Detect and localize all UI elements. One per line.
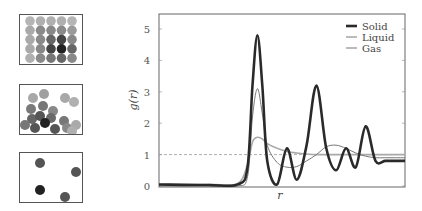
svg-text:1: 1 (144, 150, 150, 161)
svg-text:4: 4 (144, 55, 150, 66)
series-lines (159, 35, 405, 186)
series-solid (159, 35, 405, 186)
svg-text:3: 3 (144, 87, 150, 98)
svg-text:0: 0 (144, 181, 150, 192)
legend-label-solid: Solid (362, 21, 388, 32)
x-axis-label: r (277, 189, 283, 202)
svg-text:2: 2 (144, 118, 150, 129)
legend-label-liquid: Liquid (362, 32, 395, 43)
rdf-chart: 012345 g(r) r SolidLiquidGas (0, 0, 422, 211)
svg-text:5: 5 (144, 24, 150, 35)
legend-label-gas: Gas (362, 43, 381, 54)
y-axis-label: g(r) (127, 90, 140, 111)
legend: SolidLiquidGas (346, 21, 395, 54)
